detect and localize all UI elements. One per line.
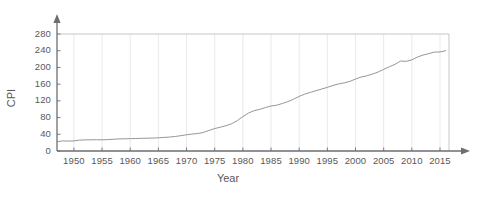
y-tick-label: 240 <box>15 44 51 55</box>
x-axis-title: Year <box>198 172 258 184</box>
plot-box-group <box>57 34 449 151</box>
y-tick-label: 40 <box>15 128 51 139</box>
y-tick-label: 120 <box>15 94 51 105</box>
y-axis-title: CPI <box>5 78 17 118</box>
axes-group <box>53 14 470 155</box>
gridlines-group <box>74 34 440 151</box>
y-tick-label: 200 <box>15 61 51 72</box>
y-tick-label: 160 <box>15 78 51 89</box>
x-tick-label: 2015 <box>423 155 457 166</box>
chart-canvas <box>0 0 488 199</box>
cpi-line-series <box>57 51 446 142</box>
y-tick-label: 80 <box>15 111 51 122</box>
cpi-chart-figure: 04080120160200240280 1950195519601965197… <box>0 0 488 199</box>
y-tick-label: 0 <box>15 145 51 156</box>
y-tick-label: 280 <box>15 28 51 39</box>
